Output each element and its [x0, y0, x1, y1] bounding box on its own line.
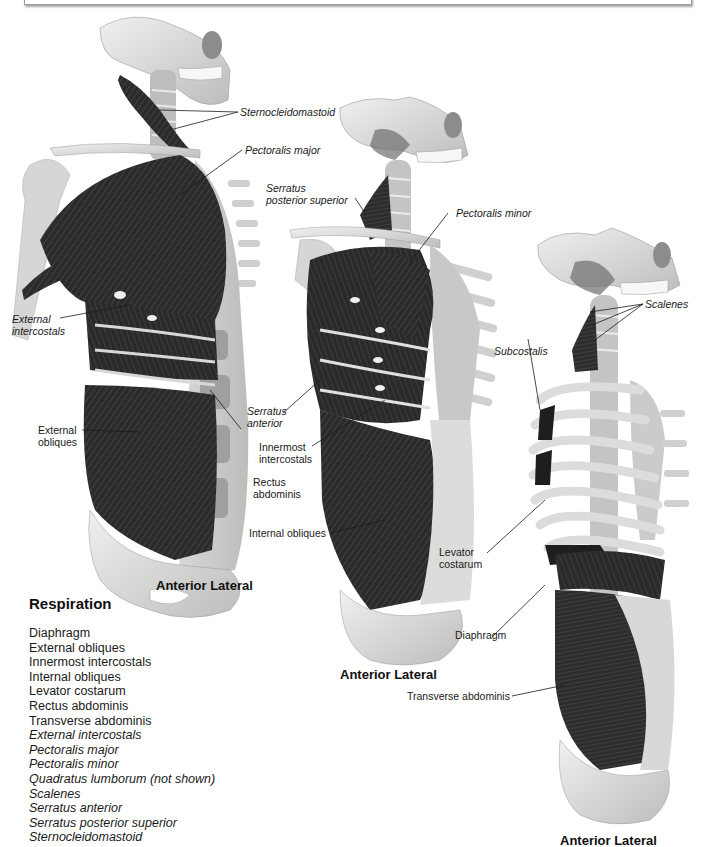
- label-scalenes: Scalenes: [645, 298, 688, 310]
- view-label-figure-3: Anterior Lateral: [560, 833, 657, 847]
- legend-item: Serratus anterior: [29, 801, 215, 816]
- legend-list: Diaphragm External obliques Innermost in…: [29, 626, 215, 845]
- legend-title: Respiration: [29, 595, 215, 612]
- legend-item: Pectoralis minor: [29, 757, 215, 772]
- legend-item: External intercostals: [29, 728, 215, 743]
- legend-item: Rectus abdominis: [29, 699, 215, 714]
- respiration-legend: Respiration Diaphragm External obliques …: [29, 595, 215, 845]
- legend-item: Transverse abdominis: [29, 714, 215, 729]
- legend-item: Innermost intercostals: [29, 655, 215, 670]
- label-pectoralis-major: Pectoralis major: [245, 144, 320, 156]
- legend-item: Diaphragm: [29, 626, 215, 641]
- label-serratus-posterior-superior: Serratus posterior superior: [266, 182, 348, 206]
- legend-item: Internal obliques: [29, 670, 215, 685]
- legend-item: Sternocleidomastoid: [29, 830, 215, 845]
- legend-item: Serratus posterior superior: [29, 816, 215, 831]
- legend-item: Quadratus lumborum (not shown): [29, 772, 215, 787]
- label-sternocleidomastoid: Sternocleidomastoid: [240, 106, 335, 118]
- legend-item: Levator costarum: [29, 684, 215, 699]
- label-serratus-anterior: Serratus anterior: [247, 405, 287, 429]
- label-rectus-abdominis: Rectus abdominis: [253, 476, 301, 500]
- label-levator-costarum: Levator costarum: [439, 546, 482, 570]
- label-internal-obliques: Internal obliques: [249, 527, 326, 539]
- label-pectoralis-minor: Pectoralis minor: [456, 207, 531, 219]
- label-external-intercostals: External intercostals: [12, 313, 65, 337]
- label-external-obliques: External obliques: [38, 424, 77, 448]
- label-transverse-abdominis: Transverse abdominis: [407, 690, 510, 702]
- view-label-figure-2: Anterior Lateral: [340, 667, 437, 682]
- legend-item: Scalenes: [29, 787, 215, 802]
- legend-item: External obliques: [29, 641, 215, 656]
- label-innermost-intercostals: Innermost intercostals: [259, 441, 312, 465]
- label-diaphragm: Diaphragm: [455, 629, 506, 641]
- legend-item: Pectoralis major: [29, 743, 215, 758]
- label-subcostalis: Subcostalis: [494, 345, 548, 357]
- view-label-figure-1: Anterior Lateral: [156, 578, 253, 593]
